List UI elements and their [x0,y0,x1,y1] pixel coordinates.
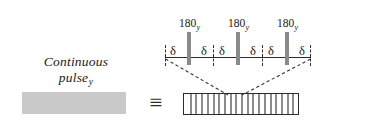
pulse-phase-subscript: y [294,23,298,32]
pulse-train-comb [183,93,299,115]
expanded-pulse-sequence: δδδδδδ180y180y180y [160,8,316,64]
cycle-boundary-tick [213,45,214,66]
comb-tooth [213,94,215,114]
comb-tooth [275,94,277,114]
caption-line-2: pulse [59,70,89,85]
continuous-pulse-caption: Continuous pulsey [20,54,132,90]
expansion-line-left [166,59,229,95]
delay-label: δ [170,44,176,59]
comb-tooth [207,94,209,114]
pulse-bar [236,32,241,65]
comb-tooth [292,94,294,114]
delay-label: δ [268,44,274,59]
pulse-flip-angle: 180 [179,17,196,29]
expansion-line-right [242,59,311,95]
cycle-boundary-tick [262,45,263,66]
comb-tooth [247,94,249,114]
caption-subscript: y [88,77,93,87]
pulse-sequence-figure: Continuous pulsey ≡ δδδδδδ180y180y180y [0,0,371,131]
delay-label: δ [201,44,207,59]
comb-tooth [252,94,254,114]
comb-tooth [218,94,220,114]
pulse-flip-angle: 180 [277,17,294,29]
pulse-flip-angle: 180 [228,17,245,29]
pulse-bar [285,32,290,65]
comb-tooth [235,94,237,114]
delay-label: δ [299,44,305,59]
comb-tooth [230,94,232,114]
delay-label: δ [219,44,225,59]
comb-tooth [201,94,203,114]
cycle-boundary-tick [310,45,311,66]
comb-tooth [270,94,272,114]
pulse-label: 180y [277,17,298,32]
comb-tooth [264,94,266,114]
caption-line-1: Continuous [44,54,108,69]
comb-tooth [258,94,260,114]
pulse-phase-subscript: y [245,23,249,32]
pulse-phase-subscript: y [196,23,200,32]
comb-tooth [224,94,226,114]
pulse-label: 180y [179,17,200,32]
equivalence-symbol: ≡ [143,90,169,116]
pulse-label: 180y [228,17,249,32]
comb-tooth [281,94,283,114]
pulse-bar [187,32,192,65]
comb-tooth [287,94,289,114]
comb-tooth [241,94,243,114]
cycle-boundary-tick [165,45,166,66]
delay-label: δ [250,44,256,59]
comb-tooth [195,94,197,114]
comb-tooth [190,94,192,114]
continuous-pulse-block [22,92,126,114]
